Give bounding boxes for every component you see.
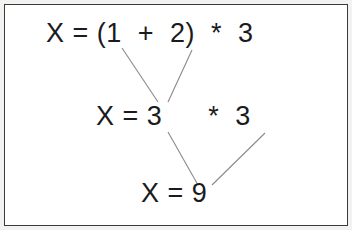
expression-step-1: X = (1 + 2) * 3 <box>46 20 254 47</box>
expression-step-2-head: X = 3 <box>96 101 162 131</box>
expression-step-3: X = 9 <box>141 180 207 207</box>
scanned-page-background: X = (1 + 2) * 3 X = 3* 3 X = 9 <box>0 0 352 230</box>
expression-step-2: X = 3* 3 <box>96 103 251 130</box>
expression-step-2-tail: * 3 <box>208 101 251 131</box>
